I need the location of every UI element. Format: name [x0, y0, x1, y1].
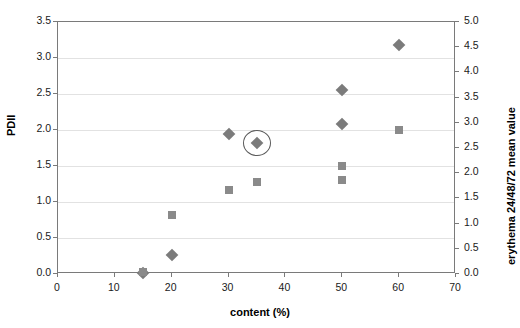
y-axis-left-tick-label: 1.5 — [17, 159, 51, 170]
y-axis-right-tick-label: 2.5 — [464, 141, 498, 152]
x-axis-tick-mark — [57, 273, 58, 277]
x-axis-tick-label: 20 — [156, 282, 186, 293]
gridline — [58, 94, 454, 95]
gridline — [58, 58, 454, 59]
data-point-square — [395, 126, 403, 134]
y-axis-left-tick-label: 0.5 — [17, 231, 51, 242]
x-axis-tick-mark — [455, 273, 456, 277]
y-axis-right-tick-mark — [455, 248, 459, 249]
y-axis-left-tick-label: 2.0 — [17, 123, 51, 134]
y-axis-right-tick-mark — [455, 147, 459, 148]
data-point-square — [338, 162, 346, 170]
y-axis-right-tick-mark — [455, 71, 459, 72]
data-point-square — [168, 211, 176, 219]
x-axis-tick-label: 30 — [213, 282, 243, 293]
y-axis-right-tick-label: 1.5 — [464, 191, 498, 202]
x-axis-tick-mark — [228, 273, 229, 277]
gridline — [58, 166, 454, 167]
scatter-chart: PDII erythema 24/48/72 mean value conten… — [0, 0, 520, 328]
y-axis-right-tick-label: 2.0 — [464, 166, 498, 177]
data-point-square — [225, 186, 233, 194]
data-point-square — [139, 268, 147, 276]
plot-area — [57, 21, 455, 273]
x-axis-tick-label: 10 — [99, 282, 129, 293]
y-axis-left-tick-label: 2.5 — [17, 87, 51, 98]
y-axis-left-tick-mark — [53, 237, 57, 238]
x-axis-title: content (%) — [0, 306, 520, 318]
data-point-diamond — [165, 248, 178, 261]
y-axis-right-tick-mark — [455, 197, 459, 198]
y-axis-left-tick-mark — [53, 57, 57, 58]
x-axis-tick-label: 40 — [269, 282, 299, 293]
x-axis-tick-label: 50 — [326, 282, 356, 293]
y-axis-right-tick-label: 5.0 — [464, 15, 498, 26]
y-axis-right-tick-label: 4.0 — [464, 65, 498, 76]
x-axis-tick-mark — [398, 273, 399, 277]
y-axis-right-tick-label: 4.5 — [464, 40, 498, 51]
y-axis-right-tick-mark — [455, 97, 459, 98]
y-axis-right-tick-label: 0.0 — [464, 267, 498, 278]
y-axis-right-title: erythema 24/48/72 mean value — [505, 107, 517, 265]
annotation-ellipse — [243, 130, 271, 156]
y-axis-right-tick-mark — [455, 46, 459, 47]
x-axis-tick-mark — [171, 273, 172, 277]
y-axis-left-tick-mark — [53, 93, 57, 94]
y-axis-left-tick-label: 3.5 — [17, 15, 51, 26]
gridline — [58, 202, 454, 203]
data-point-square — [338, 176, 346, 184]
x-axis-tick-label: 0 — [42, 282, 72, 293]
y-axis-right-tick-mark — [455, 122, 459, 123]
x-axis-tick-label: 70 — [440, 282, 470, 293]
data-point-square — [253, 178, 261, 186]
x-axis-tick-label: 60 — [383, 282, 413, 293]
gridline — [58, 238, 454, 239]
x-axis-tick-mark — [114, 273, 115, 277]
y-axis-left-title: PDII — [5, 115, 17, 136]
y-axis-right-tick-mark — [455, 21, 459, 22]
y-axis-right-tick-label: 1.0 — [464, 217, 498, 228]
x-axis-tick-mark — [284, 273, 285, 277]
y-axis-left-tick-label: 0.0 — [17, 267, 51, 278]
y-axis-right-tick-label: 3.5 — [464, 91, 498, 102]
y-axis-right-tick-label: 3.0 — [464, 116, 498, 127]
x-axis-tick-mark — [341, 273, 342, 277]
y-axis-left-tick-mark — [53, 129, 57, 130]
y-axis-left-tick-mark — [53, 165, 57, 166]
y-axis-left-tick-label: 1.0 — [17, 195, 51, 206]
y-axis-left-tick-mark — [53, 21, 57, 22]
y-axis-left-tick-label: 3.0 — [17, 51, 51, 62]
y-axis-right-tick-label: 0.5 — [464, 242, 498, 253]
y-axis-right-tick-mark — [455, 172, 459, 173]
data-point-diamond — [393, 39, 406, 52]
y-axis-right-tick-mark — [455, 223, 459, 224]
y-axis-left-tick-mark — [53, 201, 57, 202]
